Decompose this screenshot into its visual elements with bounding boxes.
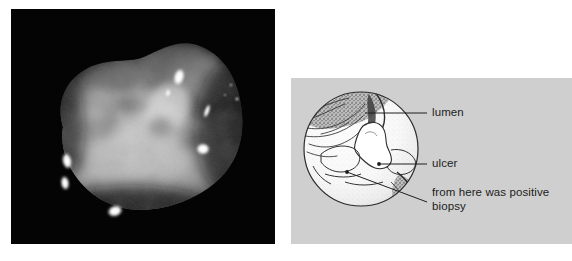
diagram-label-biopsy-line1: from here was positive — [432, 186, 549, 198]
endoscopic-field-circle — [304, 91, 419, 206]
diagram-label-ulcer: ulcer — [432, 157, 457, 171]
diagram-label-lumen: lumen — [432, 106, 464, 120]
endoscopic-photograph — [11, 9, 275, 244]
diagram-label-biopsy: from here was positive biopsy — [432, 186, 549, 213]
diagram-label-biopsy-line2: biopsy — [432, 200, 466, 212]
figure-container: lumen ulcer from here was positive biops… — [0, 0, 572, 261]
endoscopic-photograph-image — [11, 9, 275, 244]
schematic-diagram: lumen ulcer from here was positive biops… — [291, 78, 572, 244]
